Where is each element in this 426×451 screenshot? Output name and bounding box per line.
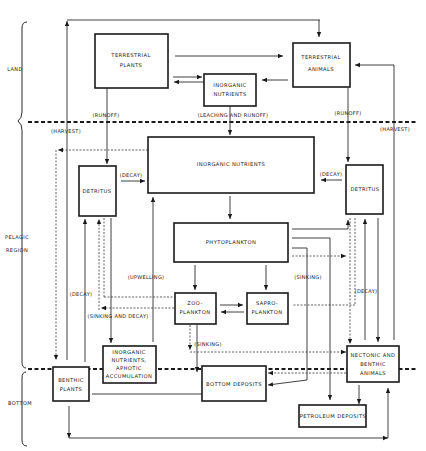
label-runoff-left: (RUNOFF) [93, 112, 120, 118]
label-decay-left: (DECAY) [120, 172, 143, 178]
box-bottom-deposits: BOTTOM DEPOSITS [202, 366, 266, 401]
svg-text:ANIMALS: ANIMALS [360, 370, 386, 376]
label-sinking-and-decay: (SINKING AND DECAY) [87, 313, 148, 319]
box-nectonic-benthic-animals: NECTONIC AND BENTHIC ANIMALS [347, 346, 399, 382]
svg-text:PLANKTON: PLANKTON [252, 309, 283, 315]
svg-text:PLANKTON: PLANKTON [180, 309, 211, 315]
svg-text:NUTRIENTS: NUTRIENTS [213, 91, 246, 97]
label-sinking-right: (SINKING) [294, 274, 321, 280]
box-inorganic-nutrients-main: INORGANIC NUTRIENTS [148, 137, 314, 193]
box-inorganic-nutrients-land: INORGANIC NUTRIENTS [204, 74, 256, 106]
svg-text:TERRESTRIAL: TERRESTRIAL [110, 52, 150, 58]
svg-text:ZOO-: ZOO- [187, 300, 202, 306]
svg-text:INORGANIC: INORGANIC [213, 82, 246, 88]
label-runoff-right: (RUNOFF) [335, 110, 362, 116]
label-harvest-right: (HARVEST) [380, 126, 410, 132]
label-decay-right: (DECAY) [320, 171, 343, 177]
svg-text:APHOTIC: APHOTIC [116, 365, 142, 371]
svg-text:PLANTS: PLANTS [60, 386, 82, 392]
region-label-bottom: BOTTOM [8, 400, 32, 406]
svg-text:BENTHIC: BENTHIC [360, 361, 386, 367]
nutrient-cycle-diagram: LAND PELAGIC REGION BOTTOM [0, 0, 426, 451]
region-label-region: REGION [6, 247, 28, 253]
label-upwelling: (UPWELLING) [128, 274, 165, 280]
svg-text:BOTTOM DEPOSITS: BOTTOM DEPOSITS [206, 381, 262, 387]
svg-text:ANIMALS: ANIMALS [308, 66, 334, 72]
label-sinking-lower: (SINKING) [194, 341, 221, 347]
svg-text:PLANTS: PLANTS [120, 62, 142, 68]
box-terrestrial-plants: TERRESTRIAL PLANTS [95, 34, 168, 88]
box-benthic-plants: BENTHIC PLANTS [53, 367, 89, 401]
box-detritus-right: DETRITUS [346, 165, 383, 214]
label-harvest-left: (HARVEST) [51, 128, 81, 134]
label-leaching-runoff: (LEACHING AND RUNOFF) [198, 112, 269, 118]
box-phytoplankton: PHYTOPLANKTON [174, 223, 288, 262]
svg-text:NECTONIC AND: NECTONIC AND [351, 352, 396, 358]
svg-text:ACCUMULATION: ACCUMULATION [106, 373, 152, 379]
region-label-pelagic: PELAGIC [5, 234, 29, 240]
label-decay-lower-left: (DECAY) [70, 291, 93, 297]
box-inorganic-aphotic: INORGANIC NUTRIENTS, APHOTIC ACCUMULATIO… [103, 346, 156, 383]
box-detritus-left: DETRITUS [79, 166, 116, 216]
svg-text:DETRITUS: DETRITUS [82, 188, 111, 194]
svg-text:BENTHIC: BENTHIC [58, 377, 84, 383]
svg-text:NUTRIENTS,: NUTRIENTS, [111, 357, 146, 363]
svg-text:SAPRO-: SAPRO- [256, 300, 278, 306]
box-terrestrial-animals: TERRESTRIAL ANIMALS [293, 43, 350, 87]
box-petroleum-deposits: PETROLEUM DEPOSITS [299, 405, 366, 427]
box-zooplankton: ZOO- PLANKTON [175, 293, 216, 324]
svg-text:TERRESTRIAL: TERRESTRIAL [300, 54, 340, 60]
svg-text:DETRITUS: DETRITUS [350, 186, 379, 192]
box-saproplankton: SAPRO- PLANKTON [247, 293, 288, 324]
svg-text:INORGANIC NUTRIENTS: INORGANIC NUTRIENTS [197, 161, 266, 167]
svg-text:PHYTOPLANKTON: PHYTOPLANKTON [206, 239, 256, 245]
svg-text:PETROLEUM DEPOSITS: PETROLEUM DEPOSITS [300, 413, 366, 419]
svg-text:INORGANIC: INORGANIC [112, 349, 145, 355]
region-label-land: LAND [7, 66, 23, 72]
label-decay-lower-right: (DECAY) [355, 288, 378, 294]
